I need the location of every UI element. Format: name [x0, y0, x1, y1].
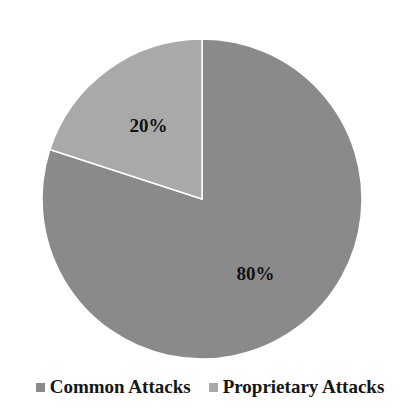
legend-label: Common Attacks — [50, 376, 191, 398]
pie-chart: 80%20% — [0, 0, 420, 370]
legend-item-common-attacks[interactable]: Common Attacks — [36, 376, 191, 398]
legend-swatch-icon — [209, 383, 218, 392]
pie-slices — [42, 39, 362, 359]
legend: Common Attacks Proprietary Attacks — [0, 376, 420, 398]
legend-item-proprietary-attacks[interactable]: Proprietary Attacks — [209, 376, 385, 398]
slice-label: 20% — [129, 115, 167, 136]
legend-label: Proprietary Attacks — [223, 376, 385, 398]
slice-label: 80% — [237, 263, 275, 284]
legend-swatch-icon — [36, 383, 45, 392]
